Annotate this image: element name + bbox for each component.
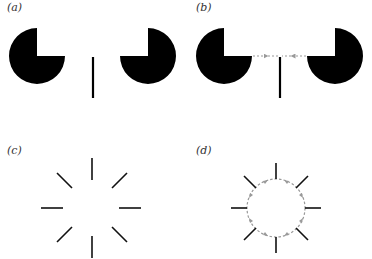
spoke-sw (244, 228, 256, 240)
spoke-se (296, 228, 308, 240)
panel-d (231, 163, 321, 253)
spoke-nw (57, 173, 72, 188)
panel-c (41, 158, 141, 258)
spoke-ne (112, 173, 127, 188)
pacman-left (9, 28, 65, 84)
pacman-right (120, 28, 176, 84)
spoke-nw (244, 176, 256, 188)
pacman-left (196, 28, 252, 84)
panel-a (9, 28, 176, 98)
illusory-contour-figure (0, 0, 372, 259)
circle-arrows (249, 180, 303, 236)
spoke-se (112, 227, 127, 242)
panel-b (196, 28, 363, 98)
spoke-sw (57, 227, 72, 242)
spoke-ne (296, 176, 308, 188)
pacman-right (307, 28, 363, 84)
